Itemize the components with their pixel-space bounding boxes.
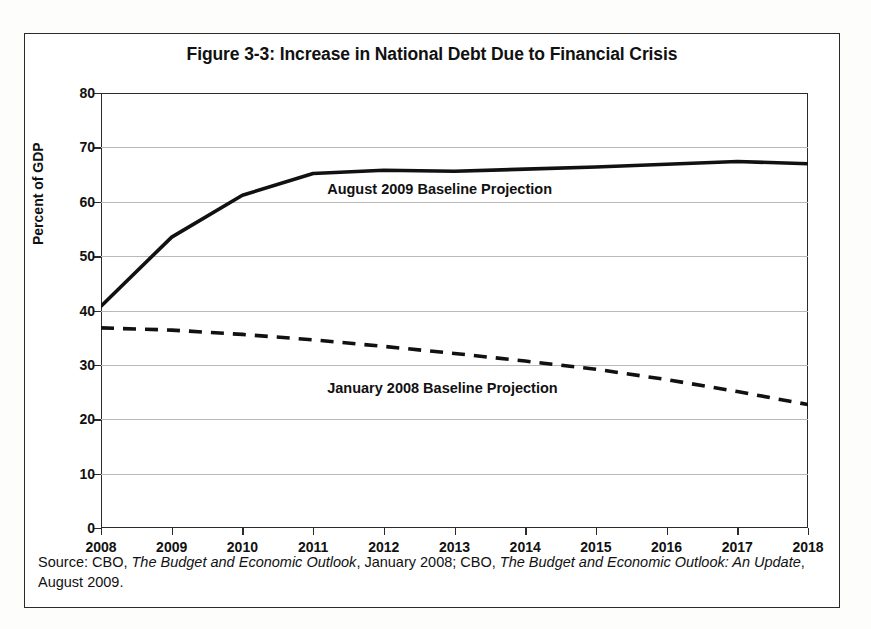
x-tick-mark-2018 <box>808 528 809 535</box>
y-tick-mark-30 <box>94 365 101 366</box>
series-lines <box>101 93 808 528</box>
source-middle: , January 2008; CBO, <box>356 554 499 570</box>
y-tick-label-20: 20 <box>35 411 95 427</box>
x-tick-mark-2008 <box>101 528 102 535</box>
y-tick-label-30: 30 <box>35 357 95 373</box>
y-tick-mark-70 <box>94 147 101 148</box>
figure-title: Figure 3-3: Increase in National Debt Du… <box>24 44 840 65</box>
x-tick-mark-2009 <box>172 528 173 535</box>
y-tick-mark-40 <box>94 311 101 312</box>
y-tick-label-0: 0 <box>35 520 95 536</box>
source-note: Source: CBO, The Budget and Economic Out… <box>38 553 828 592</box>
y-tick-mark-0 <box>94 528 101 529</box>
y-tick-mark-20 <box>94 419 101 420</box>
y-tick-mark-50 <box>94 256 101 257</box>
x-tick-mark-2010 <box>242 528 243 535</box>
y-tick-label-70: 70 <box>35 139 95 155</box>
y-tick-label-60: 60 <box>35 194 95 210</box>
figure-container: Figure 3-3: Increase in National Debt Du… <box>0 0 871 629</box>
chart-plot-area: 01020304050607080 2008200920102011201220… <box>101 93 808 528</box>
series-label-january-2008: January 2008 Baseline Projection <box>327 380 558 396</box>
y-tick-label-10: 10 <box>35 466 95 482</box>
source-title-1: The Budget and Economic Outlook <box>131 554 356 570</box>
y-tick-mark-60 <box>94 202 101 203</box>
x-tick-mark-2015 <box>596 528 597 535</box>
x-tick-mark-2016 <box>667 528 668 535</box>
x-tick-mark-2014 <box>525 528 526 535</box>
x-tick-mark-2012 <box>384 528 385 535</box>
x-tick-mark-2017 <box>737 528 738 535</box>
y-tick-label-40: 40 <box>35 303 95 319</box>
y-tick-mark-80 <box>94 93 101 94</box>
y-tick-label-80: 80 <box>35 85 95 101</box>
source-title-2: The Budget and Economic Outlook: An Upda… <box>500 554 801 570</box>
source-prefix: Source: CBO, <box>38 554 131 570</box>
x-tick-mark-2013 <box>455 528 456 535</box>
x-tick-mark-2011 <box>313 528 314 535</box>
y-tick-mark-10 <box>94 474 101 475</box>
series-label-august-2009: August 2009 Baseline Projection <box>327 181 552 197</box>
y-tick-label-50: 50 <box>35 248 95 264</box>
